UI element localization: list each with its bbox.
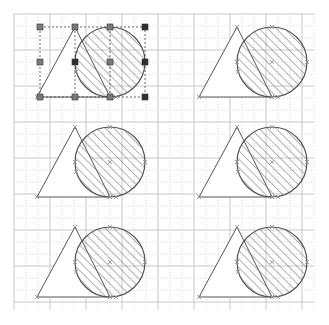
figure-1[interactable]: [35, 25, 147, 99]
figure-3[interactable]: [35, 125, 147, 199]
diagram-svg[interactable]: [0, 0, 329, 325]
resize-handle[interactable]: [107, 59, 113, 65]
figure-2[interactable]: [197, 25, 309, 99]
resize-handle[interactable]: [72, 94, 78, 100]
resize-handle[interactable]: [37, 94, 43, 100]
figure-6[interactable]: [197, 225, 309, 299]
resize-handle[interactable]: [37, 59, 43, 65]
figure-5[interactable]: [35, 225, 147, 299]
resize-handle[interactable]: [142, 94, 148, 100]
figure-4[interactable]: [197, 125, 309, 199]
resize-handle[interactable]: [107, 24, 113, 30]
resize-handle[interactable]: [142, 59, 148, 65]
drawing-canvas[interactable]: [0, 0, 329, 325]
resize-handle[interactable]: [72, 24, 78, 30]
shapes-layer[interactable]: [35, 25, 309, 299]
resize-handle[interactable]: [107, 94, 113, 100]
resize-handle[interactable]: [72, 59, 78, 65]
resize-handle[interactable]: [37, 24, 43, 30]
resize-handle[interactable]: [142, 24, 148, 30]
